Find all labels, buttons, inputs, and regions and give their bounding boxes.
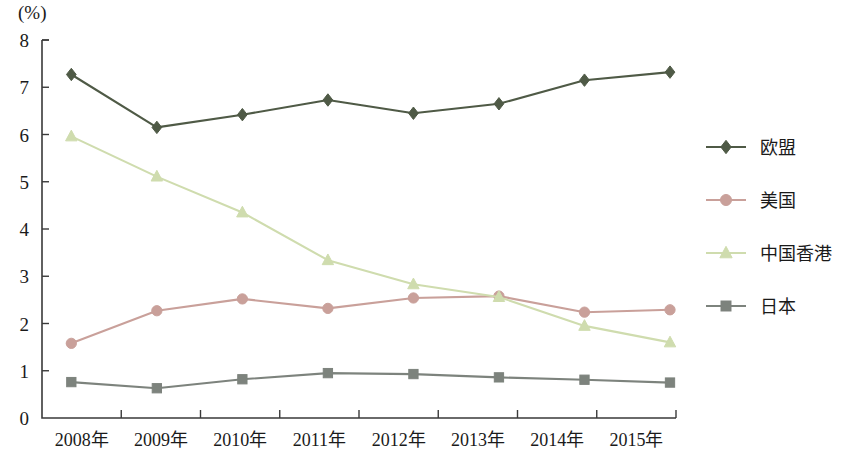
data-point-marker: [408, 293, 418, 303]
data-point-marker: [323, 94, 333, 106]
y-tick-label: 0: [20, 408, 30, 429]
data-point-marker: [237, 294, 247, 304]
chart-axes: [42, 40, 676, 418]
data-point-marker: [494, 373, 503, 382]
chart-series: [67, 368, 675, 392]
legend-item-label: 欧盟: [760, 137, 796, 158]
data-point-marker: [580, 74, 590, 86]
data-point-marker: [665, 305, 675, 315]
x-tick-label: 2008年: [55, 430, 109, 450]
chart-series: [66, 66, 674, 134]
legend-item[interactable]: 欧盟: [706, 137, 796, 158]
data-point-marker: [665, 378, 674, 387]
data-point-marker: [322, 254, 333, 265]
x-tick-label: 2011年: [293, 430, 346, 450]
legend-item[interactable]: 日本: [706, 296, 796, 317]
chart-container: (%) 012345678 2008年2009年2010年2011年2012年2…: [0, 0, 846, 455]
legend-marker-icon: [721, 140, 731, 153]
legend-item-label: 中国香港: [760, 243, 832, 264]
data-point-marker: [323, 303, 333, 313]
chart-series: [66, 291, 675, 349]
data-point-marker: [579, 307, 589, 317]
data-point-marker: [409, 369, 418, 378]
data-point-marker: [152, 306, 162, 316]
y-tick-label: 7: [20, 77, 30, 98]
data-point-marker: [323, 368, 332, 377]
x-axis-tick-labels: 2008年2009年2010年2011年2012年2013年2014年2015年: [55, 430, 664, 450]
data-point-marker: [152, 384, 161, 393]
data-point-marker: [238, 375, 247, 384]
y-axis-tick-labels: 012345678: [20, 30, 30, 429]
y-tick-label: 5: [20, 172, 30, 193]
y-tick-label: 4: [20, 219, 30, 240]
data-point-marker: [67, 377, 76, 386]
y-tick-label: 3: [20, 266, 30, 287]
data-point-marker: [66, 338, 76, 348]
data-point-marker: [409, 107, 419, 119]
legend-item-label: 日本: [760, 296, 796, 317]
data-point-marker: [66, 130, 77, 141]
y-tick-label: 2: [20, 314, 30, 335]
legend-item[interactable]: 中国香港: [706, 243, 832, 264]
x-tick-label: 2015年: [609, 430, 663, 450]
legend-item[interactable]: 美国: [706, 190, 796, 211]
x-tick-label: 2010年: [213, 430, 267, 450]
chart-series-group: [66, 66, 676, 393]
x-tick-label: 2014年: [530, 430, 584, 450]
y-tick-label: 1: [20, 361, 30, 382]
data-point-marker: [66, 68, 76, 80]
x-tick-label: 2012年: [372, 430, 426, 450]
line-chart-svg: 012345678 2008年2009年2010年2011年2012年2013年…: [0, 0, 846, 455]
legend-item-label: 美国: [760, 190, 796, 211]
data-point-marker: [494, 98, 504, 110]
legend-marker-icon: [721, 301, 731, 311]
data-point-marker: [238, 108, 248, 120]
x-tick-label: 2009年: [134, 430, 188, 450]
data-point-marker: [665, 66, 675, 78]
y-tick-label: 6: [20, 125, 30, 146]
data-point-marker: [580, 375, 589, 384]
legend-marker-icon: [720, 194, 731, 205]
x-tick-label: 2013年: [451, 430, 505, 450]
chart-legend: 欧盟美国中国香港日本: [706, 137, 832, 317]
y-tick-label: 8: [20, 30, 30, 51]
data-point-marker: [152, 121, 162, 133]
